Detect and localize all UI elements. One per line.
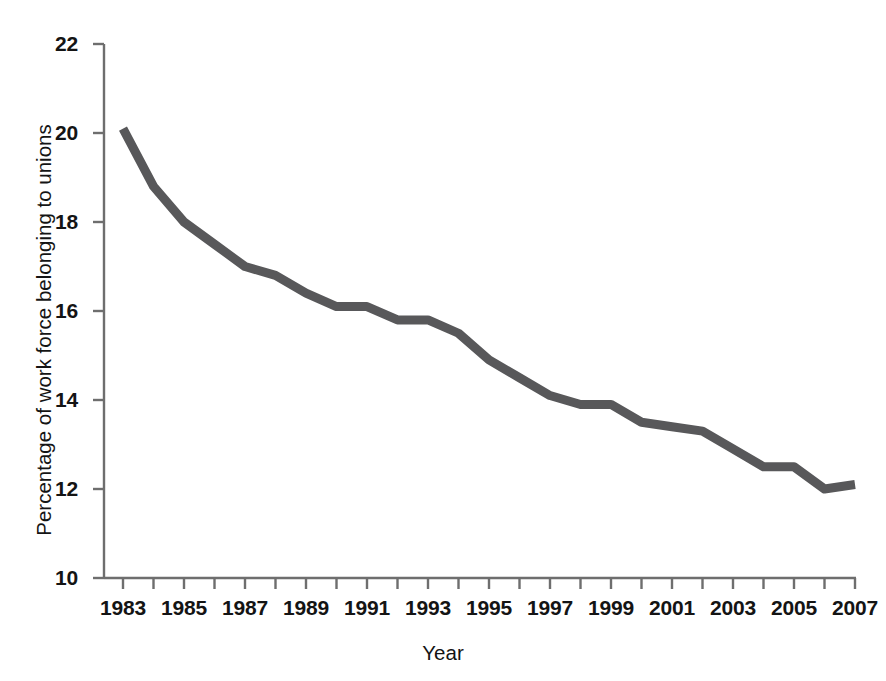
y-axis-tick-label: 22 [22, 32, 78, 56]
x-axis-tick-label: 1993 [405, 596, 451, 620]
x-axis-tick-label: 2001 [649, 596, 695, 620]
x-axis-ticks [123, 578, 855, 589]
data-series-line [123, 129, 855, 489]
y-axis-ticks [93, 44, 104, 578]
x-axis-tick-label: 1999 [588, 596, 634, 620]
chart-plot-area [0, 0, 886, 681]
x-axis-tick-label: 1991 [344, 596, 390, 620]
x-axis-tick-label: 1995 [466, 596, 512, 620]
x-axis-tick-label: 1985 [161, 596, 207, 620]
y-axis-tick-label: 10 [22, 566, 78, 590]
x-axis-tick-label: 1987 [222, 596, 268, 620]
x-axis-tick-label: 1997 [527, 596, 573, 620]
x-axis-tick-label: 1989 [283, 596, 329, 620]
x-axis-tick-label: 2003 [710, 596, 756, 620]
union-membership-line-chart: 10121416182022 1983198519871989199119931… [0, 0, 886, 681]
x-axis-title: Year [0, 641, 886, 665]
x-axis-tick-label: 2007 [832, 596, 878, 620]
x-axis-tick-label: 1983 [100, 596, 146, 620]
x-axis-tick-label: 2005 [771, 596, 817, 620]
axis-lines [104, 44, 856, 578]
y-axis-title: Percentage of work force belonging to un… [32, 100, 56, 560]
